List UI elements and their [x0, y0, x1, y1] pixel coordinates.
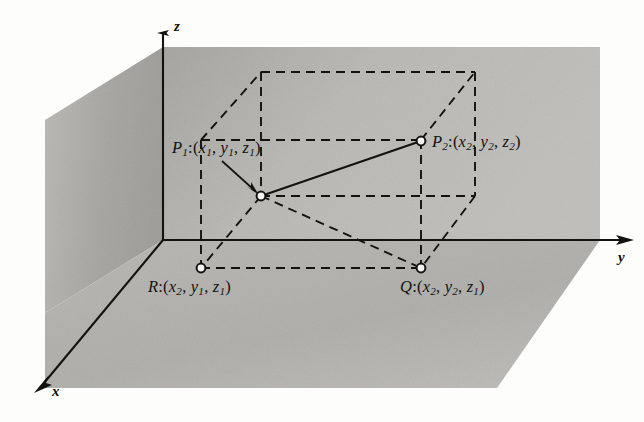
marker-p2 — [417, 137, 426, 146]
q-close-paren: ) — [479, 277, 485, 296]
q-name: Q — [400, 277, 412, 296]
marker-p1 — [257, 192, 266, 201]
p2-coord-0-var: x — [459, 132, 467, 151]
p1-coord-0-var: x — [199, 138, 207, 157]
r-name: R — [148, 277, 158, 296]
p2-close-paren: ) — [515, 132, 521, 151]
marker-r — [197, 264, 206, 273]
r-close-paren: ) — [225, 277, 231, 296]
p1-coord-1-var: y — [221, 138, 229, 157]
point-label-p1: P1:(x1, y1, z1) — [172, 140, 261, 158]
p2-name: P — [432, 132, 442, 151]
y-axis-label: y — [618, 250, 625, 265]
z-axis-label: z — [174, 19, 180, 34]
p1-close-paren: ) — [255, 138, 261, 157]
xy-plane — [45, 240, 600, 388]
figure-canvas: z y x P1:(x1, y1, z1) P2:(x2, y2, z2) R:… — [0, 0, 644, 422]
point-label-p2: P2:(x2, y2, z2) — [432, 134, 521, 152]
marker-q — [417, 264, 426, 273]
p1-name: P — [172, 138, 182, 157]
diagram-svg — [0, 0, 644, 422]
p2-coord-1-var: y — [481, 132, 489, 151]
point-label-q: Q:(x2, y2, z1) — [400, 279, 485, 297]
point-label-r: R:(x2, y1, z1) — [148, 279, 231, 297]
x-axis-label: x — [52, 384, 60, 399]
